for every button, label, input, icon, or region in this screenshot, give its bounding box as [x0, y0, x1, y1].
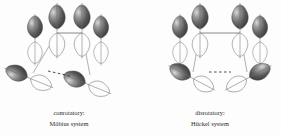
diagram-canvas: conrotatory: Möbius system — [0, 0, 281, 135]
caption-huckel-system-line2: Hückel system — [191, 120, 229, 127]
caption-mobius-system-line2: Möbius system — [50, 120, 89, 127]
orbital-diagram-figure: conrotatory: Möbius system — [0, 0, 281, 135]
caption-conrotatory-line1: conrotatory: — [53, 109, 84, 116]
caption-disrotatory-line1: disrotatory: — [195, 109, 225, 116]
